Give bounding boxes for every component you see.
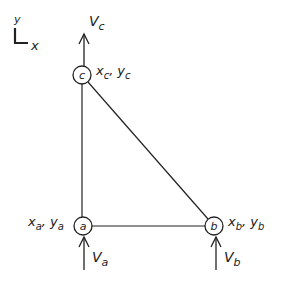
force-label-c: Vc: [89, 13, 105, 33]
force-arrow-b: [211, 237, 221, 270]
node-label-b: b: [211, 220, 218, 233]
force-label-a: Va: [92, 249, 109, 269]
coord-label-a: xa,ya: [27, 214, 64, 232]
node-a: a: [74, 217, 92, 235]
triangle-element-diagram: y x Vc Va Vb c a b xc: [0, 0, 282, 287]
coord-label-b: xb,yb: [227, 214, 264, 232]
edge-c-b: [88, 82, 208, 219]
node-label-a: a: [80, 220, 87, 233]
force-arrow-a: [79, 237, 89, 270]
force-arrow-c: [79, 34, 89, 66]
axis-icon: [15, 28, 28, 43]
y-axis-label: y: [13, 13, 21, 26]
element-edges: [82, 82, 208, 226]
axis-indicator: y x: [13, 13, 39, 53]
coord-label-c: xc,yc: [95, 63, 131, 81]
node-b: b: [205, 217, 223, 235]
x-axis-label: x: [30, 38, 39, 53]
node-c: c: [73, 66, 91, 84]
node-label-c: c: [79, 69, 85, 82]
force-label-b: Vb: [224, 249, 241, 269]
